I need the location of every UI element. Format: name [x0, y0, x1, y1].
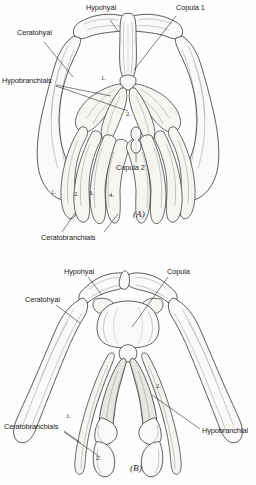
callout-ceratobranchial-3: 3. — [89, 189, 94, 196]
label-copula-2: Copula 2 — [116, 163, 145, 172]
callout-ceratobranchial-1: 1. — [51, 188, 56, 195]
callout-ceratobranchial-1: 1. — [66, 412, 71, 419]
copula-1-bone — [120, 13, 137, 80]
callout-ceratobranchial-4: 4. — [109, 191, 114, 198]
label-hypobranchial: Hypobranchial — [202, 426, 248, 435]
label-ceratobranchials: Ceratobranchials — [41, 233, 96, 242]
label-ceratohyal: Ceratohyal — [17, 28, 52, 37]
figure-caption-a: (A) — [133, 209, 145, 219]
label-copula: Copula — [167, 267, 191, 276]
skeleton-drawing-a — [37, 13, 219, 223]
label-hypohyal: Hypohyal — [86, 3, 116, 12]
label-hypobranchials: Hypobranchials — [2, 76, 52, 85]
figure-caption-b: (B) — [130, 463, 142, 473]
leader-hypobranchial — [152, 395, 200, 429]
ceratohyal-bone-right — [168, 298, 242, 443]
figure-a: Hypohyal Copula 1 Ceratohyal Hypobranchi… — [0, 0, 256, 243]
callout-ceratobranchial-2: 2. — [96, 454, 101, 461]
ceratobranchial-bundle-left — [61, 127, 130, 224]
ceratobranchial-2-left — [93, 418, 117, 477]
figure-b: Hypohyal Copula Ceratohyal Hypobranchial… — [0, 243, 256, 485]
label-copula-1: Copula 1 — [176, 3, 205, 12]
ceratobranchial-2-right — [139, 418, 163, 477]
label-ceratohyal: Ceratohyal — [25, 295, 60, 304]
callout-hypobranchial-2: 2. — [156, 382, 161, 389]
label-ceratobranchials: Ceratobranchials — [4, 422, 59, 431]
callout-ceratobranchial-2: 2. — [74, 190, 79, 197]
label-hypohyal: Hypohyal — [64, 267, 94, 276]
callout-hypobranchial-1: 1. — [101, 74, 106, 81]
callout-hypobranchial-2: 2. — [126, 110, 131, 117]
copula-bone — [97, 301, 159, 348]
